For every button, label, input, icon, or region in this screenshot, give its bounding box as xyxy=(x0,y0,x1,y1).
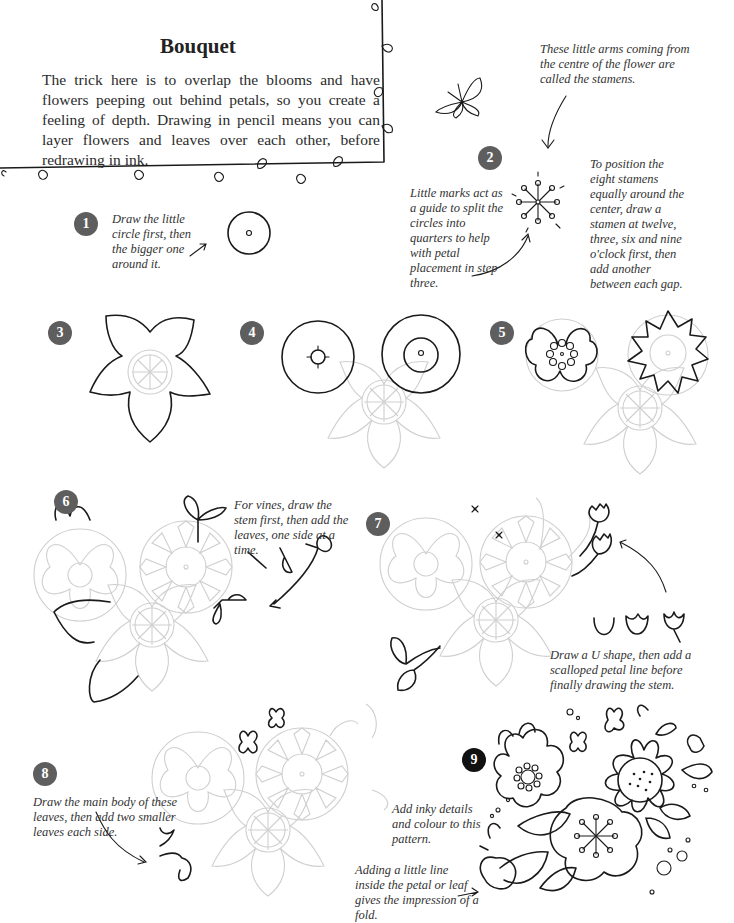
flower-step5-b xyxy=(628,311,708,395)
step-badge-9: 9 xyxy=(462,748,486,772)
stamens-note: These little arms coming from the centre… xyxy=(540,42,690,87)
main-body-note: Draw the main body of these leaves, then… xyxy=(33,795,183,840)
step-badge-6: 6 xyxy=(54,490,78,514)
step-badge-3: 3 xyxy=(48,321,72,345)
step-badge-1: 1 xyxy=(74,212,98,236)
step-badge-7: 7 xyxy=(366,512,390,536)
vines-note: For vines, draw the stem first, then add… xyxy=(234,498,356,558)
position-stamens-note: To position the eight stamens equally ar… xyxy=(590,157,690,292)
step-badge-8: 8 xyxy=(33,762,57,786)
flower-step5-a xyxy=(526,319,598,391)
step-badge-4: 4 xyxy=(240,321,264,345)
step1-note: Draw the little circle first, then the b… xyxy=(112,212,192,272)
stamen-illustration xyxy=(512,172,564,232)
page-title: Bouquet xyxy=(160,34,236,59)
inky-note: Add inky details and colour to this patt… xyxy=(392,802,482,847)
step-badge-5: 5 xyxy=(490,321,514,345)
flower-step3 xyxy=(90,315,210,442)
fold-note: Adding a little line inside the petal or… xyxy=(355,863,479,923)
u-shape-note: Draw a U shape, then add a scalloped pet… xyxy=(550,648,710,693)
butterfly-illustration xyxy=(436,78,482,118)
little-marks-note: Little marks act as a guide to split the… xyxy=(410,186,506,291)
step9-bouquet xyxy=(480,705,712,894)
step-badge-2: 2 xyxy=(478,146,502,170)
intro-paragraph: The trick here is to overlap the blooms … xyxy=(42,70,380,170)
